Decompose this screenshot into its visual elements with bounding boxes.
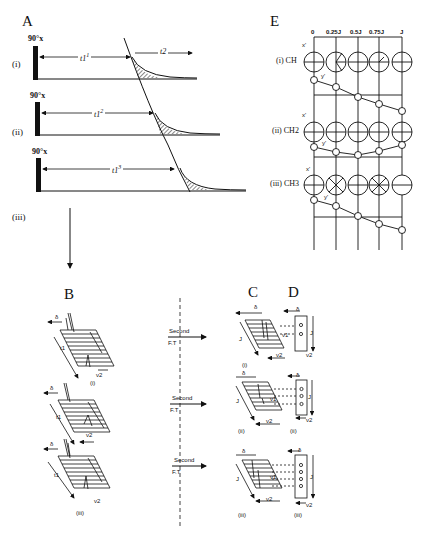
d-j-ii: J — [308, 394, 311, 400]
b-delta-iii: δ — [50, 441, 53, 447]
d-j-i: J — [310, 330, 313, 336]
e-col-1: 0.25J — [326, 29, 341, 35]
b-nu2-i: ν2 — [96, 372, 102, 378]
d-nu2-iii: ν2 — [306, 502, 312, 508]
c-delta-ii: δ — [242, 370, 245, 376]
e-col-2: 0.5J — [350, 29, 362, 35]
d-nu2-i: ν2 — [306, 352, 312, 358]
ft-label-3a: Second — [174, 457, 194, 463]
pulse-label-i: 90°x — [28, 35, 43, 43]
ft-label-3b: F.T — [172, 469, 180, 475]
ft-label-1a: Second — [169, 328, 189, 334]
e-col-4: J — [400, 29, 403, 35]
c-delta-i: δ — [254, 304, 257, 310]
ft-label-1b: F.T — [168, 340, 176, 346]
panel-e-diagram — [304, 37, 412, 250]
c-j-iii: J — [236, 476, 239, 482]
e-x-axis-iii: x' — [306, 166, 310, 172]
e-y-axis-i: y' — [321, 73, 325, 79]
pulse-bar-i — [33, 46, 38, 80]
panel-a-label: A — [22, 14, 33, 29]
c-nu1-iii: ν1 — [270, 474, 276, 480]
b-delta-ii: δ — [50, 385, 53, 391]
delay-label-iii: t13 — [110, 164, 123, 175]
panel-b-diagram — [44, 313, 114, 498]
d-j-iii: J — [310, 474, 313, 480]
panel-e-label: E — [270, 14, 279, 29]
e-y-axis-iii: y' — [324, 194, 328, 200]
b-row-i: (i) — [90, 380, 95, 386]
d-delta-ii: δ — [296, 372, 299, 378]
c-row-i: (i) — [242, 362, 247, 368]
d-delta-i: δ — [296, 306, 299, 312]
row-label-a-ii: (ii) — [12, 128, 23, 137]
delay-label-i: t11 — [78, 52, 91, 63]
d-row-ii: (ii) — [290, 428, 297, 434]
b-t1-i: t1 — [60, 345, 65, 351]
b-nu2-iii: ν2 — [94, 498, 100, 504]
d-row-iii: (iii) — [294, 512, 302, 518]
c-j-ii: J — [236, 398, 239, 404]
delay-label-ii: t12 — [92, 108, 105, 119]
e-x-axis-ii: x' — [302, 112, 306, 118]
c-nu2-ii: ν2 — [266, 418, 272, 424]
panel-c-label: C — [248, 285, 258, 300]
ft-label-2b: F.T — [170, 407, 178, 413]
figure-canvas — [0, 0, 423, 535]
d-delta-iii: δ — [298, 447, 301, 453]
c-nu2-iii: ν2 — [266, 496, 272, 502]
row-label-a-iii: (iii) — [12, 213, 26, 222]
panel-a-diagram — [33, 38, 246, 268]
b-t1-iii: t1 — [54, 472, 59, 478]
b-nu2-ii: ν2 — [86, 432, 92, 438]
ft-label-2a: Second — [172, 395, 192, 401]
c-row-ii: (ii) — [238, 428, 245, 434]
b-t1-ii: t1 — [56, 414, 61, 420]
e-col-0: 0 — [311, 29, 314, 35]
e-x-axis-i: x' — [302, 42, 306, 48]
e-y-axis-ii: y' — [322, 140, 326, 146]
c-nu1-ii: ν1 — [270, 396, 276, 402]
e-row-label-iii: (iii) CH3 — [270, 180, 299, 188]
e-row-label-ii: (ii) CH2 — [272, 127, 299, 135]
d-nu2-ii: ν2 — [306, 417, 312, 423]
pulse-label-ii: 90°x — [30, 92, 45, 100]
b-row-iii: (iii) — [76, 510, 84, 516]
panel-d-label: D — [288, 285, 299, 300]
c-nu2-i: ν2 — [276, 352, 282, 358]
c-j-i: J — [239, 336, 242, 342]
e-col-3: 0.75J — [369, 29, 384, 35]
panel-b-label: B — [64, 287, 74, 302]
pulse-label-iii: 90°x — [32, 148, 47, 156]
c-nu1-i: ν1 — [282, 332, 288, 338]
c-delta-iii: δ — [242, 448, 245, 454]
row-label-a-i: (i) — [12, 60, 21, 69]
e-row-label-i: (i) CH — [276, 57, 297, 65]
acquisition-label: t2 — [158, 48, 168, 56]
panel-c-diagram — [236, 313, 285, 501]
b-delta-i: δ — [55, 314, 58, 320]
c-row-iii: (iii) — [238, 512, 246, 518]
